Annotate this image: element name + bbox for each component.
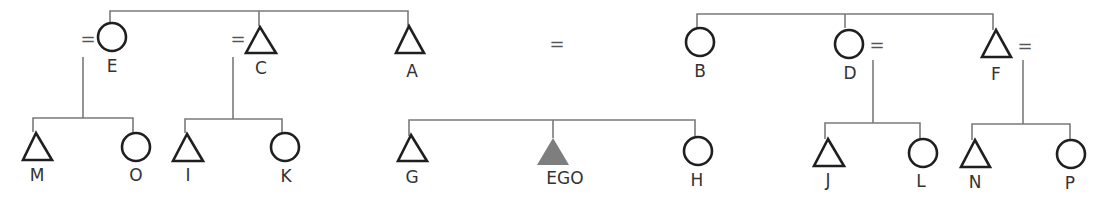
kinship-diagram: = E = C A = B = D = F M O bbox=[0, 0, 1106, 199]
person-L: L bbox=[909, 139, 937, 191]
label-D: D bbox=[843, 63, 856, 83]
male-triangle-icon bbox=[246, 27, 276, 53]
label-B: B bbox=[694, 61, 706, 81]
right-sibling-line bbox=[697, 14, 993, 30]
male-triangle-icon bbox=[396, 26, 424, 53]
label-I: I bbox=[185, 165, 190, 185]
male-triangle-icon bbox=[173, 134, 203, 161]
marriage-symbol-A-B: = bbox=[549, 33, 564, 54]
label-N: N bbox=[969, 172, 982, 192]
person-J: J bbox=[814, 139, 844, 190]
male-triangle-icon bbox=[23, 133, 52, 160]
person-C: = C bbox=[230, 27, 276, 78]
person-O: O bbox=[122, 133, 150, 185]
person-M: M bbox=[23, 133, 52, 185]
female-circle-icon bbox=[271, 133, 299, 161]
left-sibling-line bbox=[110, 11, 408, 26]
male-triangle-icon bbox=[982, 30, 1011, 57]
male-triangle-icon bbox=[398, 135, 427, 161]
label-G: G bbox=[405, 167, 418, 187]
male-triangle-icon bbox=[814, 139, 844, 166]
marriage-symbol: = bbox=[869, 34, 884, 55]
person-A: A bbox=[396, 26, 424, 81]
female-circle-icon bbox=[122, 133, 150, 161]
female-circle-icon bbox=[686, 28, 714, 56]
person-D: = D bbox=[835, 30, 885, 83]
marriage-symbol: = bbox=[1017, 35, 1032, 56]
person-E: = E bbox=[80, 23, 126, 76]
label-P: P bbox=[1065, 173, 1075, 193]
female-circle-icon bbox=[98, 23, 126, 51]
descent-line-C bbox=[185, 57, 282, 133]
descent-line-A-B bbox=[409, 120, 695, 138]
label-E: E bbox=[107, 56, 118, 76]
label-L: L bbox=[916, 171, 926, 191]
person-G: G bbox=[398, 135, 427, 187]
label-J: J bbox=[824, 170, 830, 190]
label-A: A bbox=[406, 61, 418, 81]
marriage-symbol: = bbox=[80, 28, 95, 49]
female-circle-icon bbox=[835, 30, 863, 58]
person-B: B bbox=[686, 28, 714, 81]
male-triangle-icon bbox=[961, 140, 990, 167]
female-circle-icon bbox=[909, 139, 937, 167]
descent-line-E bbox=[33, 57, 133, 132]
label-F: F bbox=[991, 64, 1001, 84]
female-circle-icon bbox=[684, 137, 712, 165]
label-H: H bbox=[691, 170, 704, 190]
person-P: P bbox=[1057, 140, 1085, 193]
label-C: C bbox=[255, 58, 267, 78]
label-K: K bbox=[280, 166, 292, 186]
descent-line-D bbox=[825, 60, 920, 139]
person-F: = F bbox=[982, 30, 1033, 84]
descent-line-F bbox=[972, 60, 1070, 140]
marriage-symbol: = bbox=[230, 28, 245, 49]
label-EGO: EGO bbox=[546, 168, 583, 188]
ego-triangle-icon bbox=[537, 138, 569, 165]
female-circle-icon bbox=[1057, 140, 1085, 168]
person-K: K bbox=[271, 133, 299, 186]
person-H: H bbox=[684, 137, 712, 190]
label-O: O bbox=[129, 165, 142, 185]
label-M: M bbox=[30, 165, 45, 185]
person-I: I bbox=[173, 134, 203, 185]
person-N: N bbox=[961, 140, 990, 192]
person-EGO: EGO bbox=[537, 138, 584, 188]
